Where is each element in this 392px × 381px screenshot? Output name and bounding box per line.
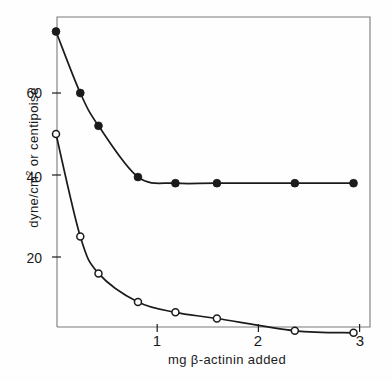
data-point-centipoise-5: [213, 315, 220, 322]
data-point-centipoise-2: [95, 270, 102, 277]
series-curves: [56, 32, 354, 333]
figure-root: dyne/cm2 or centipoise mg β-actinin adde…: [0, 0, 392, 381]
series-line-dyne-cm2: [56, 32, 354, 184]
axis-frame: [57, 17, 370, 327]
series-markers: [52, 28, 357, 337]
data-point-centipoise-0: [53, 131, 60, 138]
plot-frame: [57, 17, 370, 327]
data-point-dyne-3: [134, 173, 142, 181]
data-point-centipoise-6: [291, 327, 298, 334]
data-point-dyne-1: [76, 89, 84, 97]
data-point-centipoise-7: [350, 329, 357, 336]
data-point-dyne-4: [172, 179, 180, 187]
data-point-dyne-6: [291, 179, 299, 187]
plot-canvas: [0, 0, 392, 381]
data-point-dyne-7: [350, 179, 358, 187]
data-point-dyne-2: [95, 122, 103, 130]
data-point-centipoise-3: [134, 299, 141, 306]
data-point-centipoise-1: [77, 233, 84, 240]
series-line-centipoise: [56, 134, 354, 333]
data-point-dyne-0: [52, 28, 60, 36]
data-point-dyne-5: [213, 179, 221, 187]
data-point-centipoise-4: [172, 309, 179, 316]
